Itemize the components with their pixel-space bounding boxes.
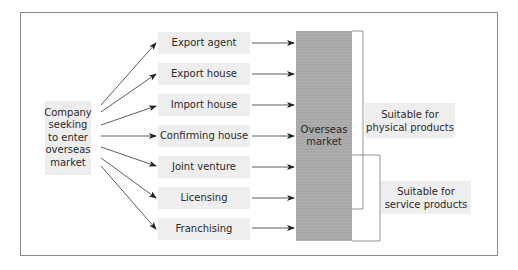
market-line: Overseas bbox=[301, 124, 348, 137]
source-line: overseas bbox=[46, 144, 91, 157]
source-line: market bbox=[50, 157, 86, 170]
note-line: physical products bbox=[366, 121, 454, 134]
note-line: Suitable for bbox=[397, 185, 455, 198]
physical-products-bracket bbox=[352, 31, 363, 209]
method-box-export-house: Export house bbox=[158, 63, 250, 85]
note-line: Suitable for bbox=[381, 108, 439, 121]
method-box-import-house: Import house bbox=[158, 94, 250, 116]
source-line: to enter bbox=[48, 132, 88, 145]
method-box-export-agent: Export agent bbox=[158, 32, 250, 54]
note-line: service products bbox=[385, 198, 468, 211]
market-line: market bbox=[306, 136, 342, 149]
method-box-licensing: Licensing bbox=[158, 187, 250, 209]
company-source-box: Company seeking to enter overseas market bbox=[45, 101, 91, 175]
method-to-market-arrows bbox=[252, 43, 294, 228]
method-box-confirming-house: Confirming house bbox=[158, 125, 250, 147]
physical-products-note: Suitable for physical products bbox=[365, 103, 455, 138]
source-line: Company bbox=[44, 107, 92, 120]
service-products-note: Suitable for service products bbox=[381, 181, 471, 214]
method-box-franchising: Franchising bbox=[158, 218, 250, 240]
source-line: seeking bbox=[49, 119, 88, 132]
fan-out-arrows bbox=[101, 43, 156, 229]
method-box-joint-venture: Joint venture bbox=[158, 156, 250, 178]
overseas-market-column: Overseas market bbox=[296, 31, 352, 241]
service-products-bracket bbox=[352, 155, 380, 241]
